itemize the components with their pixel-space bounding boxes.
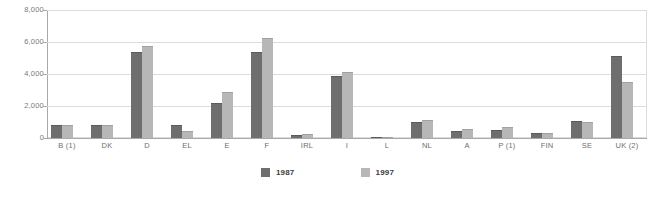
y-tick-mark (43, 42, 47, 43)
bar-1997-P1 (502, 127, 513, 138)
bar-1997-I (342, 72, 353, 138)
y-tick-label: 8,000 (0, 5, 44, 14)
bar-1997-UK2 (622, 82, 633, 138)
bar-1997-SE (582, 122, 593, 138)
x-tick-label: B (1) (47, 141, 87, 150)
bar-1987-F (251, 52, 262, 138)
bar-1997-EL (182, 131, 193, 138)
bar-group (608, 10, 648, 138)
bar-1987-A (451, 131, 462, 138)
legend-swatch-icon (361, 168, 370, 177)
bar-1997-NL (422, 120, 433, 138)
x-tick-label: A (447, 141, 487, 150)
bar-top-edge (462, 129, 473, 130)
y-tick-mark (43, 106, 47, 107)
bar-1997-E (222, 92, 233, 138)
x-tick-label: D (127, 141, 167, 150)
x-axis-line (47, 138, 647, 139)
bar-top-edge (262, 38, 273, 39)
legend-swatch-icon (261, 168, 270, 177)
bar-group (448, 10, 488, 138)
bar-top-edge (611, 56, 622, 57)
y-tick-mark (43, 10, 47, 11)
bar-top-edge (91, 125, 102, 126)
bar-1987-L (371, 137, 382, 138)
bar-top-edge (142, 46, 153, 47)
bar-group (168, 10, 208, 138)
bar-1987-DK (91, 125, 102, 138)
y-tick-label: 6,000 (0, 37, 44, 46)
x-tick-label: I (327, 141, 367, 150)
bar-group (568, 10, 608, 138)
bar-top-edge (342, 72, 353, 73)
bar-1987-E (211, 103, 222, 138)
bar-top-edge (331, 76, 342, 77)
bar-top-edge (622, 82, 633, 83)
x-tick-label: IRL (287, 141, 327, 150)
bar-1987-UK2 (611, 56, 622, 138)
bar-1997-DK (102, 125, 113, 138)
bar-top-edge (102, 125, 113, 126)
x-tick-label: F (247, 141, 287, 150)
legend-item-1997[interactable]: 1997 (361, 168, 395, 177)
bar-1987-I (331, 76, 342, 138)
legend-label: 1987 (276, 168, 295, 177)
bar-1997-B1 (62, 125, 73, 138)
x-tick-label: NL (407, 141, 447, 150)
y-tick-label: 2,000 (0, 101, 44, 110)
x-tick-label: SE (567, 141, 607, 150)
bar-group (528, 10, 568, 138)
x-tick-label: EL (167, 141, 207, 150)
y-tick-label: 0 (0, 133, 44, 142)
bar-group (88, 10, 128, 138)
bar-top-edge (502, 127, 513, 128)
bar-top-edge (291, 135, 302, 136)
bar-1987-D (131, 52, 142, 138)
bar-group (408, 10, 448, 138)
bar-group (368, 10, 408, 138)
x-tick-label: L (367, 141, 407, 150)
bar-1987-EL (171, 125, 182, 138)
chart-legend: 19871997 (0, 168, 655, 177)
legend-item-1987[interactable]: 1987 (261, 168, 295, 177)
bar-1997-L (382, 137, 393, 138)
bar-top-edge (371, 137, 382, 138)
bar-top-edge (531, 133, 542, 134)
bar-top-edge (582, 122, 593, 123)
bar-1997-FIN (542, 133, 553, 138)
bar-top-edge (422, 120, 433, 121)
x-tick-label: UK (2) (607, 141, 647, 150)
bar-group (128, 10, 168, 138)
bar-group (488, 10, 528, 138)
bar-1987-NL (411, 122, 422, 138)
bar-1997-D (142, 46, 153, 138)
bar-top-edge (251, 52, 262, 53)
bar-group (288, 10, 328, 138)
bar-top-edge (451, 131, 462, 132)
bar-1997-IRL (302, 134, 313, 138)
bar-1987-IRL (291, 135, 302, 138)
bar-top-edge (51, 125, 62, 126)
bar-top-edge (211, 103, 222, 104)
x-tick-label: P (1) (487, 141, 527, 150)
bar-1997-A (462, 129, 473, 138)
x-tick-label: DK (87, 141, 127, 150)
bar-1997-F (262, 38, 273, 138)
bar-1987-FIN (531, 133, 542, 138)
bar-top-edge (382, 137, 393, 138)
y-tick-label: 4,000 (0, 69, 44, 78)
bars-area (48, 10, 647, 138)
bar-top-edge (171, 125, 182, 126)
bar-top-edge (542, 133, 553, 134)
bar-top-edge (571, 121, 582, 122)
bar-1987-P1 (491, 130, 502, 138)
x-tick-label: FIN (527, 141, 567, 150)
y-tick-mark (43, 74, 47, 75)
bar-top-edge (491, 130, 502, 131)
bar-group (48, 10, 88, 138)
bar-group (328, 10, 368, 138)
bar-top-edge (182, 131, 193, 132)
legend-label: 1997 (376, 168, 395, 177)
bar-chart: 02,0004,0006,0008,000 B (1)DKDELEFIRLILN… (0, 0, 655, 198)
bar-group (208, 10, 248, 138)
